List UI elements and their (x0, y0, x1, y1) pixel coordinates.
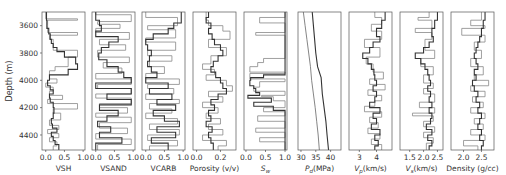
x-tick-label: 0.5 (108, 153, 120, 162)
x-tick-label: 2.0 (458, 153, 470, 162)
x-tick-label: 0.5 (260, 153, 272, 162)
x-axis-label: Sw (261, 164, 271, 174)
track-vsand: 0.00.51.0VSAND (90, 12, 140, 173)
x-axis-label: Porosity (v/v) (190, 164, 239, 173)
track-porosity-v-v-: 0.00.2Porosity (v/v) (190, 12, 239, 173)
well-log-chart: Depth (m) 36003800400042004400 0.00.51.0… (0, 0, 506, 175)
x-tick-label: 35 (311, 153, 321, 162)
x-axis-label: VSH (56, 164, 72, 173)
track-panels: 0.00.51.0VSH0.00.51.0VSAND0.00.51.0VCARB… (40, 12, 499, 175)
x-tick-label: 4 (374, 153, 379, 162)
y-tick-label: 3800 (19, 49, 38, 58)
y-tick-label: 4400 (19, 131, 38, 140)
track-v-p-km-s-: 34Vp(km/s) (349, 12, 392, 175)
x-tick-label: 3 (357, 153, 362, 162)
x-tick-label: 1.0 (127, 153, 139, 162)
x-tick-label: 2.0 (418, 153, 430, 162)
x-tick-label: 0.0 (191, 153, 203, 162)
x-tick-label: 0.5 (58, 153, 70, 162)
y-axis-ticks: 36003800400042004400 (19, 21, 42, 139)
series-fine (203, 12, 233, 150)
y-tick-label: 4000 (19, 76, 38, 85)
track-v-s-km-s-: 1.52.02.5Vs(km/s) (400, 12, 444, 174)
series-fine (146, 12, 180, 150)
y-tick-label: 4200 (19, 103, 38, 112)
series-fine (96, 12, 132, 150)
x-tick-label: 0.0 (240, 153, 252, 162)
x-tick-label: 0.5 (158, 153, 170, 162)
x-tick-label: 1.0 (279, 153, 291, 162)
x-tick-label: 1.5 (404, 153, 416, 162)
x-tick-label: 0.2 (215, 153, 227, 162)
track-p-d-mpa-: 303540Pd(MPa) (296, 12, 341, 174)
x-axis-label: Vs(km/s) (406, 164, 438, 174)
x-tick-label: 2.5 (431, 153, 443, 162)
series-fine (462, 12, 489, 150)
series-fine (250, 12, 285, 150)
track-density-g-cc-: 2.02.5Density (g/cc) (446, 12, 498, 173)
track-frame (298, 12, 341, 150)
x-axis-label: Pd(MPa) (305, 164, 334, 174)
series-fine (303, 12, 319, 150)
well-log-figure: Depth (m) 36003800400042004400 0.00.51.0… (0, 0, 506, 175)
y-tick-label: 3600 (19, 21, 38, 30)
x-axis-label: Vp(km/s) (354, 164, 387, 175)
track-s-w: 0.00.51.0Sw (240, 12, 291, 174)
y-axis-label: Depth (m) (5, 61, 14, 102)
x-tick-label: 2.5 (475, 153, 487, 162)
x-tick-label: 40 (326, 153, 336, 162)
x-tick-label: 30 (296, 153, 306, 162)
x-axis-label: VCARB (151, 164, 177, 173)
track-vsh: 0.00.51.0VSH (40, 12, 90, 173)
x-axis-label: VSAND (100, 164, 127, 173)
track-frame (349, 12, 392, 150)
track-vcarb: 0.00.51.0VCARB (140, 12, 190, 173)
series-upscaled (312, 12, 328, 150)
series-fine (46, 12, 78, 150)
x-axis-label: Density (g/cc) (446, 164, 498, 173)
x-tick-label: 0.0 (140, 153, 152, 162)
x-tick-label: 1.0 (177, 153, 189, 162)
x-tick-label: 0.0 (90, 153, 102, 162)
x-tick-label: 1.0 (77, 153, 89, 162)
x-tick-label: 0.0 (40, 153, 52, 162)
